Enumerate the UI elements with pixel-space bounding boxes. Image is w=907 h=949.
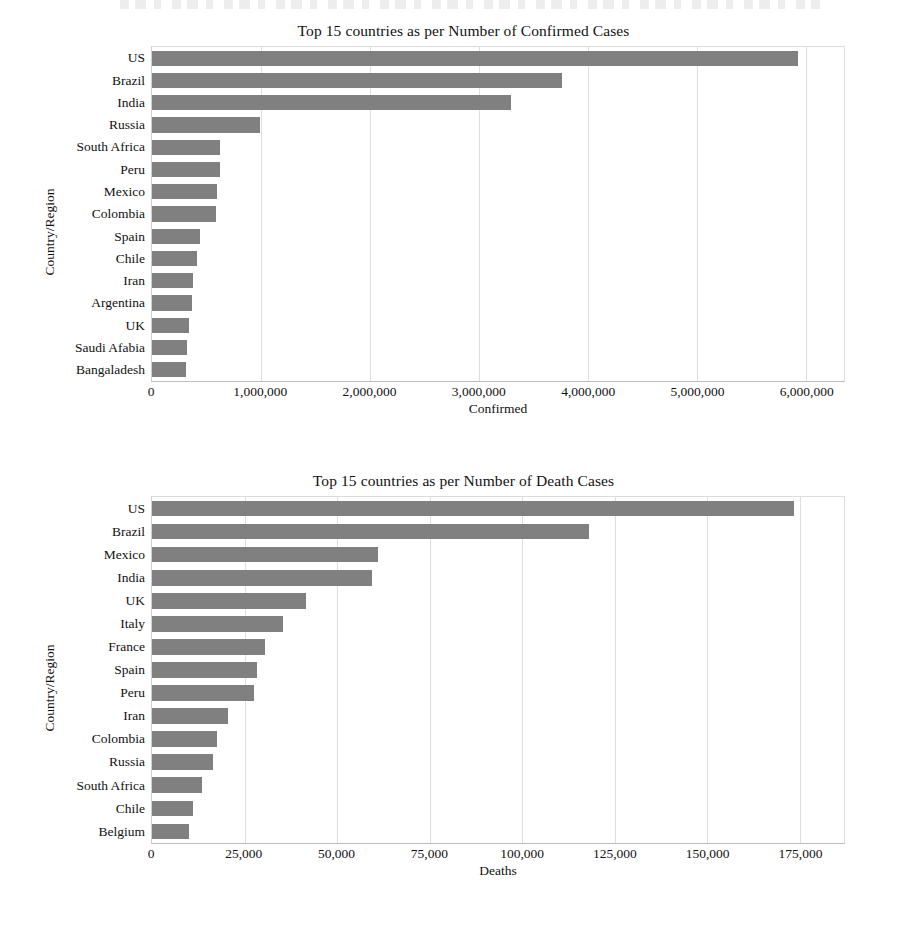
bar-category-label: South Africa: [76, 140, 145, 154]
bar-row: Spain: [152, 658, 844, 681]
bar-category-label: Brazil: [112, 74, 145, 88]
bar: [152, 731, 217, 747]
bar-row: US: [152, 47, 844, 69]
bar-category-label: UK: [126, 319, 146, 333]
bar-category-label: South Africa: [76, 779, 145, 793]
bar-category-label: Colombia: [92, 207, 145, 221]
bar: [152, 570, 372, 586]
bar-row: India: [152, 92, 844, 114]
plot-area: Country/Region USBrazilMexicoIndiaUKItal…: [0, 496, 907, 879]
bar-category-label: Saudi Afabia: [75, 341, 145, 355]
bar-row: Iran: [152, 705, 844, 728]
bar: [152, 318, 189, 333]
bar-row: Chile: [152, 797, 844, 820]
bar: [152, 824, 189, 840]
bar: [152, 95, 511, 110]
x-tick-label: 0: [148, 384, 155, 400]
bar-row: India: [152, 566, 844, 589]
bar-row: Colombia: [152, 203, 844, 225]
bar-category-label: India: [117, 96, 145, 110]
bar-category-label: Russia: [109, 755, 145, 769]
y-axis-title: Country/Region: [42, 188, 58, 275]
bar: [152, 501, 794, 517]
bar-category-label: Chile: [116, 252, 145, 266]
bar: [152, 685, 254, 701]
x-tick-label: 1,000,000: [233, 384, 287, 400]
bar: [152, 73, 562, 88]
bar-row: South Africa: [152, 774, 844, 797]
bar-row: Bangaladesh: [152, 359, 844, 381]
bar-row: South Africa: [152, 136, 844, 158]
bar: [152, 229, 200, 244]
bar-row: Italy: [152, 612, 844, 635]
bar: [152, 295, 192, 310]
x-tick-labels: 025,00050,00075,000100,000125,000150,000…: [151, 844, 845, 864]
bar-category-label: France: [108, 640, 145, 654]
bar-row: Russia: [152, 114, 844, 136]
bar-category-label: US: [128, 502, 145, 516]
bar-category-label: US: [128, 51, 145, 65]
bar-category-label: Iran: [123, 274, 145, 288]
bar-category-label: Mexico: [104, 185, 145, 199]
bar: [152, 708, 228, 724]
bar-row: UK: [152, 314, 844, 336]
bar-row: Colombia: [152, 728, 844, 751]
bar-row: UK: [152, 589, 844, 612]
bar: [152, 117, 260, 132]
bars-container: USBrazilIndiaRussiaSouth AfricaPeruMexic…: [151, 46, 845, 382]
bar-category-label: Russia: [109, 118, 145, 132]
y-axis-title: Country/Region: [42, 644, 58, 731]
bar-category-label: Peru: [120, 163, 145, 177]
bar-category-label: Bangaladesh: [76, 363, 145, 377]
x-axis-title: Confirmed: [151, 401, 845, 417]
bar-row: Peru: [152, 682, 844, 705]
bar-category-label: Iran: [123, 709, 145, 723]
x-tick-label: 3,000,000: [452, 384, 506, 400]
x-tick-label: 6,000,000: [780, 384, 834, 400]
bar-category-label: Spain: [114, 663, 145, 677]
bar-category-label: Colombia: [92, 732, 145, 746]
bar: [152, 206, 216, 221]
bar-category-label: Chile: [116, 802, 145, 816]
bar-row: Peru: [152, 158, 844, 180]
chart-title: Top 15 countries as per Number of Confir…: [0, 22, 907, 40]
bar-category-label: Brazil: [112, 525, 145, 539]
bar: [152, 639, 265, 655]
x-tick-label: 175,000: [779, 846, 823, 862]
bar: [152, 184, 217, 199]
x-tick-label: 125,000: [593, 846, 637, 862]
bar-row: Brazil: [152, 520, 844, 543]
bar-row: Saudi Afabia: [152, 336, 844, 358]
bar-category-label: Italy: [120, 617, 145, 631]
bar-category-label: Mexico: [104, 548, 145, 562]
bar-category-label: India: [117, 571, 145, 585]
bar-category-label: Spain: [114, 230, 145, 244]
bar: [152, 340, 187, 355]
bar: [152, 140, 220, 155]
x-tick-label: 25,000: [225, 846, 262, 862]
x-tick-label: 100,000: [500, 846, 544, 862]
bar-row: Chile: [152, 247, 844, 269]
bar: [152, 162, 220, 177]
bar: [152, 51, 798, 66]
bar: [152, 547, 378, 563]
bar-row: Mexico: [152, 543, 844, 566]
bar: [152, 777, 202, 793]
bar-row: Iran: [152, 270, 844, 292]
bar-row: Russia: [152, 751, 844, 774]
bar: [152, 616, 283, 632]
chart-death-cases: Top 15 countries as per Number of Death …: [0, 472, 907, 949]
bar: [152, 754, 213, 770]
x-tick-label: 0: [148, 846, 155, 862]
x-tick-label: 75,000: [411, 846, 448, 862]
bar-category-label: UK: [126, 594, 146, 608]
bar-row: US: [152, 497, 844, 520]
bar: [152, 801, 193, 817]
bar-row: Belgium: [152, 820, 844, 843]
x-tick-label: 150,000: [686, 846, 730, 862]
bar-category-label: Peru: [120, 686, 145, 700]
x-tick-label: 50,000: [318, 846, 355, 862]
bar-row: France: [152, 635, 844, 658]
bar-row: Brazil: [152, 69, 844, 91]
bars-container: USBrazilMexicoIndiaUKItalyFranceSpainPer…: [151, 496, 845, 844]
